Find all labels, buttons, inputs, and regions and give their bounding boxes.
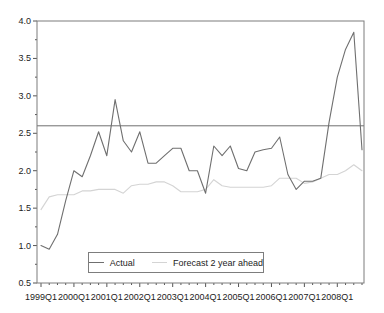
x-axis-tick-label: 2001Q1 xyxy=(91,292,123,302)
legend-label-forecast: Forecast 2 year ahead xyxy=(173,258,263,268)
plot-frame xyxy=(37,21,364,283)
x-axis-tick-label: 2002Q1 xyxy=(124,292,156,302)
actual-line-swatch xyxy=(89,262,104,263)
legend-label-actual: Actual xyxy=(110,258,135,268)
forecast-series-line xyxy=(41,165,362,210)
y-axis-tick-label: 2.5 xyxy=(18,128,31,138)
x-axis-tick-label: 2006Q1 xyxy=(255,292,287,302)
x-axis-tick-label: 2003Q1 xyxy=(157,292,189,302)
x-axis-tick-label: 1999Q1 xyxy=(25,292,57,302)
y-axis-tick-label: 0.5 xyxy=(18,278,31,288)
x-axis-tick-label: 2004Q1 xyxy=(190,292,222,302)
y-axis-tick-label: 2.0 xyxy=(18,166,31,176)
y-axis-tick-label: 1.5 xyxy=(18,203,31,213)
y-axis-tick-label: 3.0 xyxy=(18,91,31,101)
x-axis-tick-label: 2005Q1 xyxy=(223,292,255,302)
y-axis-tick-label: 4.0 xyxy=(18,16,31,26)
actual-series-line xyxy=(41,32,362,249)
forecast-line-swatch xyxy=(152,262,167,263)
inflation-forecast-chart: 0.51.01.52.02.53.03.54.01999Q12000Q12001… xyxy=(0,0,384,313)
x-axis-tick-label: 2007Q1 xyxy=(288,292,320,302)
chart-legend: Actual Forecast 2 year ahead xyxy=(88,252,264,273)
x-axis-tick-label: 2000Q1 xyxy=(58,292,90,302)
y-axis-tick-label: 3.5 xyxy=(18,53,31,63)
x-axis-tick-label: 2008Q1 xyxy=(321,292,353,302)
y-axis-tick-label: 1.0 xyxy=(18,241,31,251)
